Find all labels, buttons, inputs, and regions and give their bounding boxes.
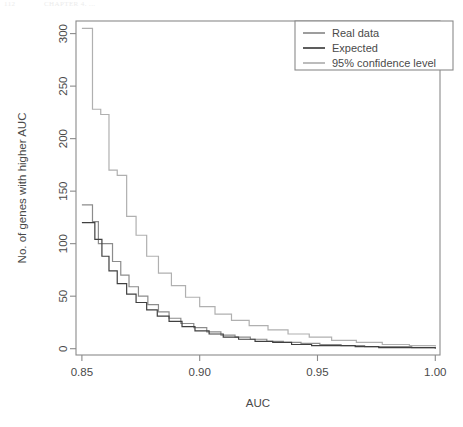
legend-label-1: Real data (332, 27, 380, 39)
y-axis-tick-label: 0 (57, 345, 69, 351)
series-line-real-data (82, 205, 435, 348)
series-line-95-confidence-level (82, 28, 435, 346)
legend-label-3: 95% confidence level (332, 57, 436, 69)
auc-step-chart: 0501001502002503000.850.900.951.00AUCNo.… (0, 0, 463, 427)
x-axis-tick-label: 0.90 (188, 366, 210, 378)
plot-frame (76, 21, 440, 355)
figure-container: 112 CHAPTER 4. ... 0501001502002503000.8… (0, 0, 463, 427)
x-axis-tick-label: 1.00 (424, 366, 446, 378)
y-axis-tick-label: 250 (57, 77, 69, 96)
y-axis-tick-label: 300 (57, 24, 69, 43)
y-axis-tick-label: 50 (57, 290, 69, 303)
x-axis-tick-label: 0.85 (71, 366, 93, 378)
x-axis-tick-label: 0.95 (306, 366, 328, 378)
y-axis-tick-label: 200 (57, 129, 69, 148)
x-axis-title: AUC (246, 397, 270, 409)
y-axis-tick-label: 100 (57, 234, 69, 253)
y-axis-title: No. of genes with higher AUC (16, 113, 28, 264)
series-line-expected (82, 223, 435, 349)
legend-label-2: Expected (332, 42, 378, 54)
y-axis-tick-label: 150 (57, 182, 69, 201)
